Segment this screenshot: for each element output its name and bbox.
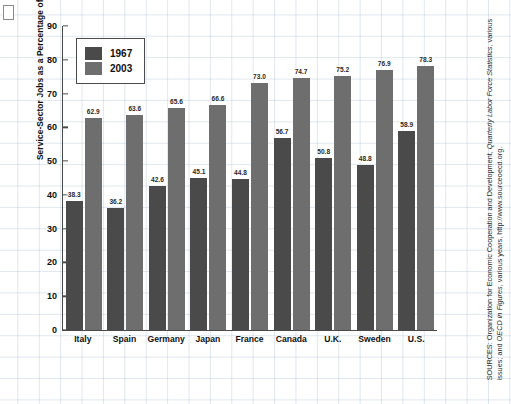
x-axis-label-uk: U.K. — [312, 334, 354, 344]
bar-value-label: 42.6 — [150, 176, 165, 183]
source-italic-1: Quarterly Labor Force Statistics — [485, 47, 494, 150]
bar-us-2003: 78.3 — [417, 66, 434, 330]
bar-germany-2003: 65.6 — [168, 108, 185, 330]
bar-japan-1967: 45.1 — [190, 178, 207, 330]
source-italic-2: OECD in Figures — [495, 286, 504, 341]
bar-us-1967: 58.9 — [398, 131, 415, 330]
y-axis-tick-label: 10 — [47, 291, 63, 301]
x-axis-category-labels: ItalySpainGermanyJapanFranceCanadaU.K.Sw… — [62, 334, 437, 344]
y-axis-tick-label: 50 — [47, 156, 63, 166]
x-axis-label-spain: Spain — [104, 334, 146, 344]
chart-legend: 1967 2003 — [76, 38, 145, 84]
source-suffix: , various years, http://www.sourceoecd.o… — [495, 147, 504, 287]
bar-group: 50.875.2 — [312, 26, 354, 330]
bar-canada-2003: 74.7 — [293, 78, 310, 330]
bar-spain-1967: 36.2 — [107, 208, 124, 330]
x-axis-label-us: U.S. — [395, 334, 437, 344]
bar-value-label: 56.7 — [275, 128, 290, 135]
bar-value-label: 58.9 — [399, 121, 414, 128]
legend-item-2003: 2003 — [85, 62, 132, 75]
bar-uk-2003: 75.2 — [334, 76, 351, 330]
y-axis-title: Service-Sector Jobs as a Percentage of t… — [35, 0, 45, 195]
legend-label-1967: 1967 — [110, 48, 132, 59]
x-axis-label-france: France — [229, 334, 271, 344]
y-axis-tick-label: 40 — [47, 190, 63, 200]
bar-group: 45.166.6 — [188, 26, 230, 330]
bar-japan-2003: 66.6 — [209, 105, 226, 330]
y-axis-tick-label: 70 — [47, 89, 63, 99]
bar-uk-1967: 50.8 — [315, 158, 332, 330]
legend-swatch-1967 — [85, 47, 102, 60]
bar-value-label: 45.1 — [192, 168, 207, 175]
legend-label-2003: 2003 — [110, 63, 132, 74]
x-axis-label-canada: Canada — [270, 334, 312, 344]
bar-italy-2003: 62.9 — [85, 118, 102, 330]
x-axis-label-germany: Germany — [145, 334, 187, 344]
y-axis-tick-label: 90 — [47, 21, 63, 31]
bar-group: 48.876.9 — [354, 26, 396, 330]
bar-value-label: 63.6 — [127, 105, 142, 112]
bar-value-label: 65.6 — [169, 98, 184, 105]
x-axis-label-sweden: Sweden — [354, 334, 396, 344]
legend-item-1967: 1967 — [85, 47, 132, 60]
x-axis-label-japan: Japan — [187, 334, 229, 344]
bar-spain-2003: 63.6 — [126, 115, 143, 330]
bar-value-label: 73.0 — [252, 73, 267, 80]
bar-value-label: 38.3 — [67, 191, 82, 198]
chart-figure: Service-Sector Jobs as a Percentage of t… — [0, 0, 511, 404]
bar-group: 42.665.6 — [146, 26, 188, 330]
y-axis-tick-label: 30 — [47, 224, 63, 234]
source-prefix: SOURCES: Organization for Economic Coope… — [485, 149, 494, 380]
bar-sweden-2003: 76.9 — [376, 70, 393, 330]
source-note: SOURCES: Organization for Economic Coope… — [485, 0, 505, 380]
y-axis-tick-label: 60 — [47, 122, 63, 132]
x-axis-label-italy: Italy — [62, 334, 104, 344]
y-axis-tick-label: 20 — [47, 257, 63, 267]
bar-france-2003: 73.0 — [251, 83, 268, 330]
bar-value-label: 74.7 — [294, 68, 309, 75]
bar-value-label: 76.9 — [377, 60, 392, 67]
bar-value-label: 66.6 — [211, 95, 226, 102]
bar-italy-1967: 38.3 — [66, 201, 83, 330]
bar-value-label: 50.8 — [316, 148, 331, 155]
bar-value-label: 78.3 — [418, 56, 433, 63]
bar-value-label: 36.2 — [108, 198, 123, 205]
bar-canada-1967: 56.7 — [274, 138, 291, 330]
bar-sweden-1967: 48.8 — [357, 165, 374, 330]
bar-germany-1967: 42.6 — [149, 186, 166, 330]
bar-group: 44.873.0 — [229, 26, 271, 330]
bar-value-label: 48.8 — [358, 155, 373, 162]
y-axis-tick-label: 80 — [47, 55, 63, 65]
bar-france-1967: 44.8 — [232, 179, 249, 330]
bar-value-label: 44.8 — [233, 169, 248, 176]
bar-group: 56.774.7 — [271, 26, 313, 330]
bar-group: 58.978.3 — [396, 26, 438, 330]
bar-value-label: 75.2 — [335, 66, 350, 73]
bar-value-label: 62.9 — [86, 108, 101, 115]
legend-swatch-2003 — [85, 62, 102, 75]
